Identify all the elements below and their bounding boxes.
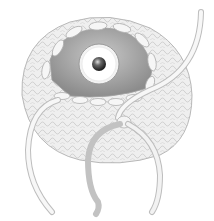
eye-ball: [79, 44, 119, 84]
pupil: [92, 57, 106, 71]
illustration: [0, 0, 214, 221]
crochet-cup-drawing: [0, 0, 214, 221]
